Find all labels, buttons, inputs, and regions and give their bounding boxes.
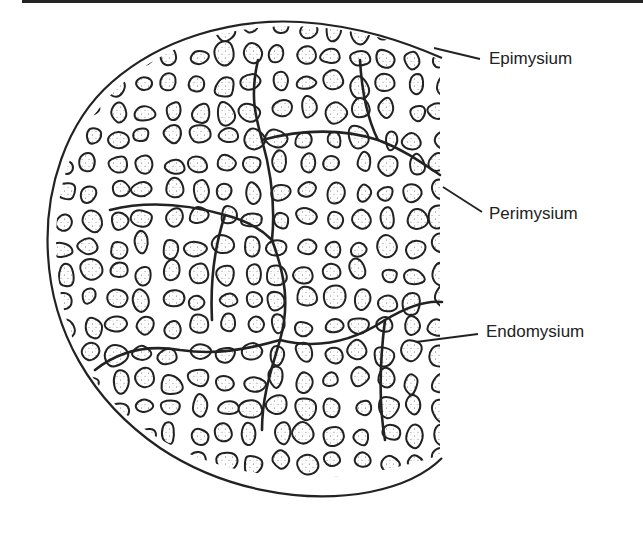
muscle-fiber-cell	[54, 400, 74, 414]
muscle-fiber-cell	[351, 24, 370, 45]
muscle-fiber-cell	[162, 23, 180, 41]
muscle-fiber-cell	[109, 156, 128, 172]
muscle-fiber-cell	[221, 313, 235, 331]
muscle-fiber-cell	[405, 316, 420, 335]
muscle-fiber-cell	[167, 102, 181, 120]
muscle-fiber-cell	[164, 260, 180, 280]
muscle-fiber-cell	[157, 349, 176, 364]
muscle-fiber-cell	[403, 184, 421, 202]
muscle-fiber-cell	[323, 398, 339, 417]
muscle-fiber-cell	[78, 451, 100, 471]
muscle-fiber-cell	[410, 106, 425, 121]
muscle-fiber-cell	[296, 208, 317, 224]
muscle-fiber-cell	[108, 132, 129, 148]
muscle-fiber-cell	[272, 100, 292, 116]
muscle-fiber-cell	[350, 76, 369, 99]
muscle-fiber-cell	[194, 180, 209, 203]
muscle-fiber-cell	[103, 455, 125, 469]
muscle-fiber-cell	[56, 215, 72, 231]
muscle-fiber-cell	[110, 263, 127, 277]
muscle-fiber-cell	[135, 368, 154, 388]
muscle-fiber-cell	[244, 43, 262, 63]
muscle-fiber-cell	[326, 319, 344, 332]
muscle-fiber-cell	[247, 264, 261, 284]
muscle-fiber-cell	[60, 161, 73, 174]
muscle-fiber-cell	[352, 210, 371, 229]
muscle-fiber-cell	[193, 394, 207, 417]
muscle-fiber-cell	[245, 456, 262, 475]
muscle-fiber-cell	[326, 242, 341, 258]
muscle-fiber-cell	[49, 51, 70, 65]
muscle-fiber-cell	[406, 395, 420, 415]
muscle-fiber-cell	[77, 428, 96, 447]
muscle-fiber-cell	[404, 374, 417, 394]
muscle-fiber-cell	[355, 289, 371, 310]
muscle-fiber-cell	[113, 181, 130, 197]
muscle-fiber-cell	[406, 241, 426, 259]
muscle-fiber-cell	[53, 104, 70, 121]
muscle-fiber-cell	[216, 266, 234, 286]
muscle-fiber-cell	[327, 18, 342, 41]
muscle-fiber-cell	[105, 26, 123, 42]
muscle-fiber-cell	[161, 401, 180, 415]
muscle-fiber-cell	[296, 372, 312, 393]
muscle-fiber-cell	[136, 77, 152, 90]
muscle-fiber-cell	[297, 455, 318, 475]
muscle-fiber-cell	[218, 155, 236, 171]
muscle-fiber-cell	[427, 319, 445, 336]
muscle-fiber-cell	[300, 23, 317, 39]
muscle-fiber-cell	[378, 156, 397, 176]
muscle-fiber-cell	[427, 103, 447, 119]
muscle-fiber-cell	[358, 184, 371, 201]
muscle-fiber-cell	[164, 321, 180, 338]
muscle-fiber-cell	[80, 259, 102, 280]
muscle-fiber-cell	[220, 482, 234, 497]
muscle-fiber-cell	[266, 395, 287, 414]
muscle-fiber-cell	[55, 24, 70, 39]
muscle-fiber-cell	[432, 374, 449, 392]
muscle-fiber-cell	[432, 233, 448, 252]
muscle-fiber-cell	[166, 178, 183, 197]
muscle-fiber-cell	[404, 270, 425, 285]
muscle-fiber-cell	[240, 74, 260, 90]
muscle-fiber-cell	[57, 376, 72, 391]
muscle-fiber-cell	[375, 74, 394, 91]
muscle-fiber-cell	[114, 370, 129, 394]
muscle-fiber-cell	[219, 128, 238, 142]
muscle-fiber-cell	[377, 235, 397, 257]
muscle-fiber-cell	[135, 231, 148, 254]
muscle-fiber-cell	[437, 76, 449, 95]
muscle-fiber-cell	[356, 401, 371, 415]
muscle-fiber-cell	[190, 263, 209, 283]
muscle-fiber-cell	[164, 290, 185, 306]
muscle-fiber-cell	[111, 242, 127, 259]
muscle-fiber-cell	[378, 295, 397, 311]
muscle-fiber-cell	[164, 240, 179, 259]
muscle-fiber-cell	[432, 400, 450, 423]
muscle-fiber-cell	[162, 422, 174, 444]
muscle-fiber-cell	[325, 102, 347, 124]
muscle-fiber-cell	[272, 450, 289, 469]
muscle-fiber-cell	[130, 486, 152, 499]
muscle-fiber-cell	[355, 452, 371, 466]
muscle-fiber-cell	[298, 239, 316, 254]
muscle-fiber-cell	[135, 155, 152, 173]
muscle-fiber-cell	[190, 125, 211, 142]
muscle-fiber-cell	[220, 293, 238, 306]
muscle-fiber-cell	[136, 399, 153, 412]
muscle-fiber-cell	[216, 453, 237, 472]
muscle-fiber-cell	[323, 372, 338, 386]
muscle-fiber-cell	[430, 483, 454, 498]
muscle-fiber-cell	[328, 212, 343, 229]
muscle-fiber-cell	[111, 102, 126, 122]
muscle-fiber-cell	[429, 205, 448, 228]
muscle-fiber-cell	[56, 71, 76, 91]
muscle-fiber-cell	[80, 399, 95, 414]
muscle-fiber-cell	[131, 210, 152, 226]
muscle-fiber-cell	[295, 322, 312, 336]
muscle-fiber-cell	[188, 157, 207, 173]
muscle-fiber-cell	[408, 455, 424, 469]
muscle-fiber-cell	[347, 340, 366, 360]
muscle-fiber-cell	[87, 128, 101, 144]
muscle-fiber-cell	[189, 296, 205, 310]
